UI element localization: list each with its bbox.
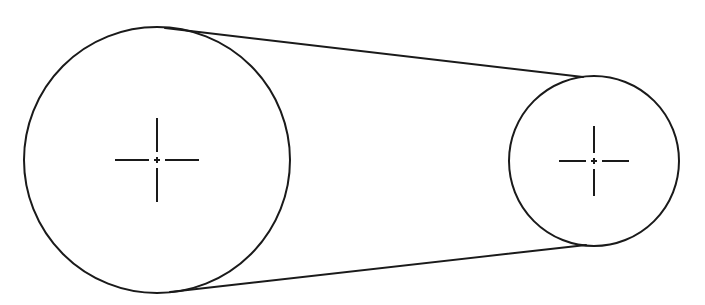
diagram-canvas xyxy=(0,0,705,305)
belt-drive-diagram xyxy=(0,0,705,305)
diagram-background xyxy=(0,0,705,305)
